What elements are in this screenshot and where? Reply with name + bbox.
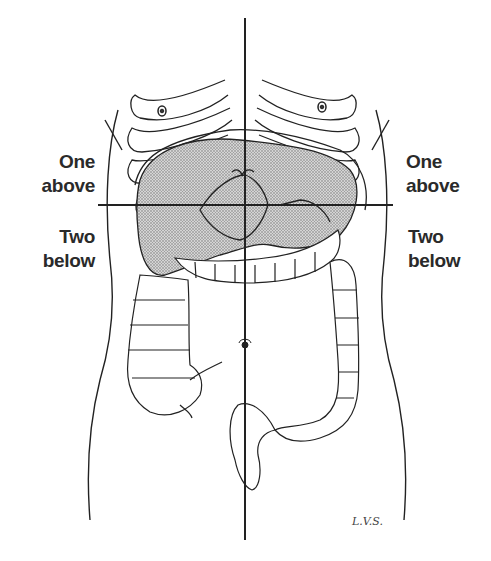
label-text: below [5,249,95,273]
label-text: Two [5,225,95,249]
label-left-lower: Two below [5,225,95,273]
anatomy-illustration [0,0,491,561]
abdominal-quadrant-diagram: One above Two below One above Two below … [0,0,491,561]
label-text: above [5,174,95,198]
label-text: One [5,150,95,174]
label-text: above [406,174,486,198]
label-right-upper: One above [406,150,486,198]
label-text: below [408,249,488,273]
label-text: Two [408,225,488,249]
label-text: One [406,150,486,174]
label-left-upper: One above [5,150,95,198]
sigmoid-colon [230,404,275,490]
label-right-lower: Two below [408,225,488,273]
descending-colon [275,260,359,442]
ascending-colon [128,275,222,418]
nipples [158,102,326,116]
artist-signature: L.V.S. [352,515,383,528]
